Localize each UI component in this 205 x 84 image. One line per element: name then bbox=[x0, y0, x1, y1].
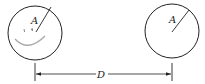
distance-label: D bbox=[96, 69, 105, 80]
right-radius-label: A bbox=[168, 14, 176, 25]
left-radius-line bbox=[36, 7, 51, 32]
distance-dimension: D bbox=[35, 63, 172, 81]
right-circle bbox=[145, 4, 199, 58]
smiley-eyes-icon bbox=[24, 28, 33, 32]
right-arrowhead-icon bbox=[166, 72, 171, 76]
left-radius-label: A bbox=[30, 15, 38, 26]
right-circle-group: A bbox=[145, 4, 199, 58]
left-circle-group: A bbox=[8, 6, 62, 60]
diagram-canvas: A A D bbox=[0, 0, 205, 84]
smiley-mouth-icon bbox=[15, 36, 45, 45]
left-arrowhead-icon bbox=[36, 72, 41, 76]
